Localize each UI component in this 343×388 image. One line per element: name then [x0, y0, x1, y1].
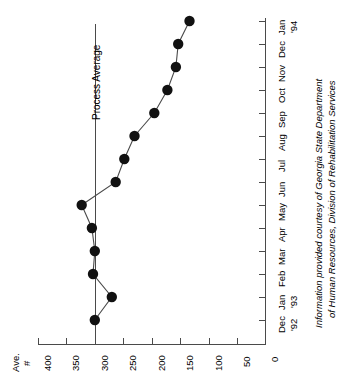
chart-container: 400 350 300 250 200 150 100 50 0 Ave. # …	[0, 0, 343, 388]
data-point	[90, 315, 100, 325]
data-point	[77, 200, 87, 210]
data-point	[173, 39, 183, 49]
data-point	[184, 16, 194, 26]
caption-line-1: Information provided courtesy of Georgia…	[313, 79, 325, 328]
data-point	[129, 131, 139, 141]
data-point	[162, 85, 172, 95]
data-point	[90, 246, 100, 256]
data-point	[88, 269, 98, 279]
data-point	[107, 292, 117, 302]
data-series	[0, 0, 343, 388]
data-point	[87, 223, 97, 233]
data-point	[111, 177, 121, 187]
data-point	[171, 62, 181, 72]
data-point	[119, 154, 129, 164]
caption-line-2: of Human Resources, Division of Rehabili…	[326, 80, 338, 318]
data-point	[149, 108, 159, 118]
